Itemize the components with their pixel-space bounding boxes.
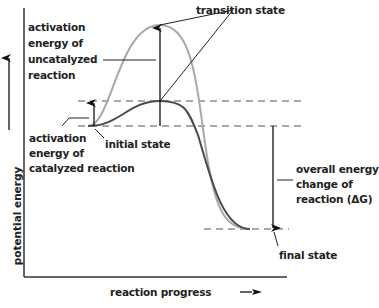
initial-state-label: initial state — [105, 137, 171, 151]
y-axis-label: potential energy — [11, 166, 23, 266]
uncatalyzed-line-4: reaction — [28, 67, 97, 83]
uncatalyzed-line-2: energy of — [28, 35, 97, 51]
uncatalyzed-line-1: activation — [28, 19, 97, 35]
delta-g-line-1: overall energy — [296, 162, 379, 177]
delta-g-label: overall energy change of reaction (ΔG) — [296, 162, 379, 207]
x-axis-arrowhead — [252, 289, 262, 295]
transition-state-label: transition state — [196, 3, 285, 17]
uncatalyzed-curve — [88, 25, 250, 229]
final-state-leader — [274, 232, 278, 246]
delta-g-line-3: reaction (ΔG) — [296, 192, 379, 207]
uncatalyzed-activation-label: activation energy of uncatalyzed reactio… — [28, 19, 97, 83]
uncatalyzed-line-3: uncatalyzed — [28, 51, 97, 67]
delta-g-line-2: change of — [296, 177, 379, 192]
x-axis-label: reaction progress — [110, 285, 211, 299]
final-state-label: final state — [279, 248, 337, 262]
catalyzed-line-3: catalyzed reaction — [29, 161, 135, 176]
catalyzed-leader — [62, 118, 89, 126]
